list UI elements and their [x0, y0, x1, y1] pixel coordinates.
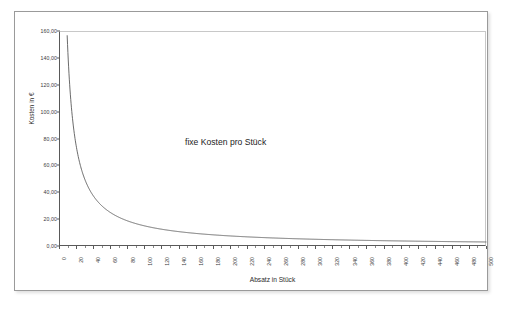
- x-axis-tick-mark: [213, 246, 214, 249]
- x-axis-tick-mark: [435, 246, 436, 249]
- x-axis-tick-mark: [349, 246, 350, 249]
- x-axis-tick-mark: [273, 246, 274, 248]
- y-axis-tick-label: 80,00: [17, 136, 57, 142]
- x-axis-tick-mark: [298, 246, 299, 249]
- chart-object-frame: Kosten in € 0,0020,0040,0060,0080,00100,…: [14, 11, 488, 291]
- x-axis-tick-mark: [85, 246, 86, 248]
- x-axis-title: Absatz in Stück: [59, 276, 486, 283]
- x-axis-tick-mark: [469, 246, 470, 249]
- x-axis-tick-mark: [144, 246, 145, 249]
- x-axis-tick-label: 460: [454, 257, 460, 266]
- x-axis-tick-mark: [281, 246, 282, 249]
- screenshot-root: Kosten in € 0,0020,0040,0060,0080,00100,…: [0, 0, 505, 310]
- x-axis-tick-mark: [264, 246, 265, 249]
- x-axis-tick-mark: [187, 246, 188, 248]
- x-axis-tick-mark: [93, 246, 94, 249]
- x-axis-tick-mark: [477, 246, 478, 248]
- x-axis-tick-mark: [119, 246, 120, 248]
- x-axis-tick-mark: [401, 246, 402, 249]
- x-axis-tick-label: 40: [95, 257, 101, 263]
- x-axis-tick-mark: [204, 246, 205, 248]
- y-axis-tick-label: 40,00: [17, 189, 57, 195]
- x-axis-tick-mark: [452, 246, 453, 249]
- x-axis-tick-mark: [324, 246, 325, 248]
- x-axis-tick-label: 340: [352, 257, 358, 266]
- x-axis-tick-mark: [161, 246, 162, 249]
- x-axis-tick-label: 20: [78, 257, 84, 263]
- x-axis-tick-label: 300: [317, 257, 323, 266]
- x-axis-tick-label: 200: [232, 257, 238, 266]
- x-axis-tick-label: 100: [147, 257, 153, 266]
- plot-annotation-label: fixe Kosten pro Stück: [185, 137, 266, 147]
- x-axis-tick-mark: [110, 246, 111, 249]
- x-axis-tick-mark: [196, 246, 197, 249]
- x-axis-tick-label: 240: [266, 257, 272, 266]
- x-axis-tick-label: 380: [386, 257, 392, 266]
- x-axis-tick-mark: [136, 246, 137, 248]
- x-axis-tick-label: 360: [369, 257, 375, 266]
- cost-per-unit-curve: [59, 31, 486, 246]
- x-axis-tick-label: 260: [283, 257, 289, 266]
- x-axis-tick-mark: [68, 246, 69, 248]
- x-axis-tick-label: 0: [61, 257, 67, 260]
- x-axis-tick-label: 420: [420, 257, 426, 266]
- x-axis-tick-mark: [230, 246, 231, 249]
- x-axis-tick-mark: [179, 246, 180, 249]
- x-axis-tick-mark: [221, 246, 222, 248]
- x-axis-tick-label: 500: [488, 257, 494, 266]
- x-axis-tick-mark: [76, 246, 77, 249]
- x-axis-tick-mark: [426, 246, 427, 248]
- x-axis-tick-label: 160: [198, 257, 204, 266]
- x-axis-tick-mark: [255, 246, 256, 248]
- x-axis-tick-mark: [290, 246, 291, 248]
- x-axis-tick-mark: [247, 246, 248, 249]
- x-axis-tick-mark: [358, 246, 359, 248]
- x-axis-tick-mark: [341, 246, 342, 248]
- x-axis-tick-label: 80: [130, 257, 136, 263]
- y-axis-tick-label: 0,00: [17, 243, 57, 249]
- x-axis-tick-label: 120: [164, 257, 170, 266]
- x-axis-tick-mark: [384, 246, 385, 249]
- x-axis-tick-mark: [332, 246, 333, 249]
- y-axis-tick-label: 20,00: [17, 216, 57, 222]
- x-axis-tick-label: 140: [181, 257, 187, 266]
- y-axis-tick-label: 100,00: [17, 109, 57, 115]
- y-axis-ticks: 0,0020,0040,0060,0080,00100,00120,00140,…: [15, 31, 57, 246]
- x-axis-tick-label: 280: [300, 257, 306, 266]
- x-axis-tick-label: 480: [471, 257, 477, 266]
- x-axis-tick-mark: [486, 246, 487, 249]
- y-axis-tick-label: 140,00: [17, 55, 57, 61]
- x-axis-tick-mark: [375, 246, 376, 248]
- x-axis-tick-mark: [392, 246, 393, 248]
- x-axis-tick-mark: [418, 246, 419, 249]
- x-axis-tick-label: 400: [403, 257, 409, 266]
- x-axis-tick-label: 220: [249, 257, 255, 266]
- x-axis-tick-mark: [238, 246, 239, 248]
- y-axis-tick-label: 120,00: [17, 82, 57, 88]
- x-axis-tick-mark: [366, 246, 367, 249]
- x-axis-tick-mark: [409, 246, 410, 248]
- x-axis-tick-label: 440: [437, 257, 443, 266]
- y-axis-tick-label: 60,00: [17, 162, 57, 168]
- x-axis-tick-mark: [307, 246, 308, 248]
- x-axis-tick-label: 60: [112, 257, 118, 263]
- x-axis-tick-label: 320: [334, 257, 340, 266]
- x-axis-tick-mark: [153, 246, 154, 248]
- x-axis-tick-mark: [315, 246, 316, 249]
- x-axis-tick-mark: [102, 246, 103, 248]
- x-axis-tick-mark: [59, 246, 60, 249]
- y-axis-tick-label: 160,00: [17, 28, 57, 34]
- x-axis-tick-mark: [443, 246, 444, 248]
- x-axis-tick-mark: [170, 246, 171, 248]
- chart-canvas: Kosten in € 0,0020,0040,0060,0080,00100,…: [15, 12, 489, 292]
- x-axis-tick-label: 180: [215, 257, 221, 266]
- x-axis-tick-mark: [460, 246, 461, 248]
- x-axis-tick-mark: [127, 246, 128, 249]
